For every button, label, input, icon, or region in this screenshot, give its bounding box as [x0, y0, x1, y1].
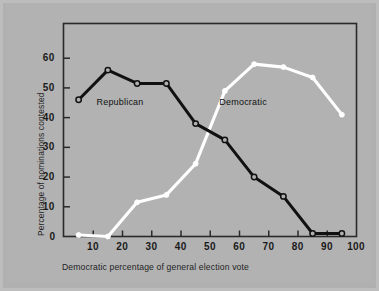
- x-tick-label: 90: [321, 241, 333, 252]
- x-tick-label: 40: [175, 241, 187, 252]
- x-axis-title: Democratic percentage of general electio…: [62, 262, 249, 272]
- figure-background: Democratic percentage of general electio…: [0, 0, 379, 291]
- y-tick-label: 60: [43, 52, 55, 63]
- series-democratic: [76, 62, 344, 239]
- y-tick-label: 50: [43, 82, 55, 93]
- y-tick-label: 40: [43, 112, 55, 123]
- y-tick-label: 0: [49, 231, 55, 242]
- series-label-democratic: Democratic: [219, 97, 267, 107]
- series-label-republican: Republican: [97, 97, 144, 107]
- x-tick-label: 50: [204, 241, 216, 252]
- series-republican: [76, 67, 345, 236]
- y-tick-label: 30: [43, 141, 55, 152]
- x-axis-ticks: [93, 231, 327, 237]
- x-tick-label: 20: [116, 241, 128, 252]
- x-tick-label: 60: [233, 241, 245, 252]
- y-tick-label: 20: [43, 171, 55, 182]
- x-tick-label: 70: [263, 241, 275, 252]
- y-tick-label: 10: [43, 201, 55, 212]
- x-tick-label: 30: [146, 241, 158, 252]
- x-tick-label: 100: [347, 241, 365, 252]
- y-axis-ticks: [64, 58, 70, 207]
- x-tick-label: 10: [87, 241, 99, 252]
- x-tick-label: 80: [292, 241, 304, 252]
